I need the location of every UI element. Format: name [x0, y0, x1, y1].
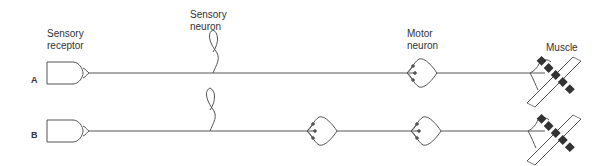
interneuron-soma-b — [307, 117, 337, 146]
motor-neuron-soma-b — [411, 117, 441, 146]
muscle-b — [527, 114, 581, 165]
motor-end-plate-b — [528, 118, 549, 148]
sensory-neuron-cell-body-b — [206, 88, 215, 131]
row-b — [47, 88, 581, 165]
sensory-receptor-b — [47, 120, 89, 142]
reflex-arc-diagram — [0, 0, 603, 166]
muscle-a — [527, 56, 581, 107]
row-a — [47, 30, 581, 107]
motor-neuron-soma-a — [407, 59, 437, 88]
sensory-receptor-a — [47, 62, 89, 84]
sensory-neuron-cell-body-a — [209, 30, 218, 73]
